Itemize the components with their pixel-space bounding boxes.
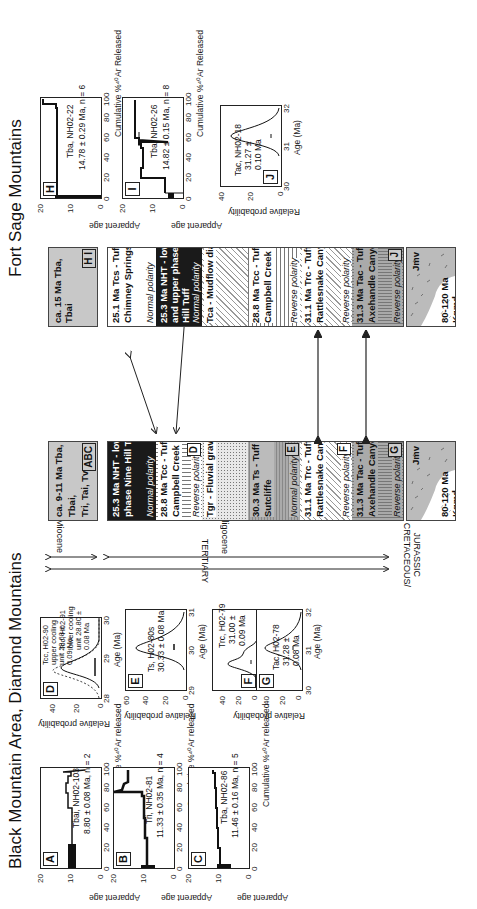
age-spectrum-c: C Tba, NH02-86 11.46 ± 0.16 Ma, n = 5 0 …: [188, 769, 263, 869]
x-axis-label: Age (Ma): [197, 624, 207, 659]
y-axis-label: Relative probability: [233, 711, 305, 721]
plot-frame: C Tba, NH02-86 11.46 ± 0.16 Ma, n = 5: [188, 767, 250, 869]
plot-frame: D Tcc, H02-90 upper cooling unit 28.68 ±…: [40, 617, 102, 699]
y-axis-label: Apparent age: [171, 221, 222, 231]
bm-unit-tcc: 28.8 Ma Tcc - Tuff ofCampbell Creek Reve…: [156, 442, 203, 520]
fs-top-unit: ca. 15 Ma Tba, Tbai H I: [48, 247, 98, 327]
plot-frame: E Ts, H02-80s 30.33 ± 0.08 Ma: [125, 609, 187, 691]
fs-unit-nht: 25.3 Ma NHT - lowerand upper phase NineH…: [156, 248, 203, 326]
y-axis-label: Apparent age: [237, 893, 288, 903]
bm-top-unit: ca. 9-11 Ma Tba, Tbai, Tri, Tai, Tvc ABC: [48, 441, 98, 521]
plot-frame: A Tbai, NH02-103 8.80 ± 0.08 Ma, n = 2: [40, 767, 102, 869]
plot-frame: H Tba, NH02-22 14.78 ± 0.29 Ma, n = 6: [40, 97, 102, 199]
tertiary-label: TERTIARY: [200, 539, 210, 583]
panel-tag: ABC: [82, 443, 96, 471]
probability-plot-j: J Tac, NH02-18 31.27 ± 0.10 Ma 30 31 32 …: [220, 107, 295, 187]
probability-plot-f: F Trc, H02-79 31.00 ± 0.09 Ma: [212, 609, 259, 691]
x-axis-label: Age (Ma): [112, 632, 122, 667]
y-axis-label: Relative probability: [124, 711, 196, 721]
bm-unit-nht: 25.3 Ma NHT - lowerphase Nine Hill Tuff …: [108, 442, 157, 520]
y-axis-label: Apparent age: [89, 893, 140, 903]
y-axis-label: Apparent age: [89, 221, 140, 231]
probability-plot-fg: F Trc, H02-79 31.00 ± 0.09 Ma G Tac, H02…: [212, 611, 317, 691]
plot-frame: B Tri, NH02-81 11.33 ± 0.35 Ma, n = 4: [113, 767, 175, 869]
y-axis-label: Apparent age: [161, 893, 212, 903]
fs-unit-tac: 31.3 Ma Tac - Tuff ofAxehandle Canyon Re…: [352, 248, 403, 326]
age-spectrum-h: H Tba, NH02-22 14.78 ± 0.29 Ma, n = 6 0 …: [40, 99, 115, 199]
probability-plot-d: D Tcc, H02-90 upper cooling unit 28.68 ±…: [40, 619, 115, 699]
miocene-label: Miocene: [55, 519, 65, 553]
y-axis-label: Relative probability: [228, 207, 300, 217]
fs-unit-tca: Tca - Mudflow diamict: [202, 248, 249, 326]
bm-unit-trc: 31.1 Ma Trc - Tuff ofRattlesnake Canyon …: [300, 442, 353, 520]
plot-frame: J Tac, NH02-18 31.27 ± 0.10 Ma: [220, 105, 282, 187]
bm-column: 25.3 Ma NHT - lowerphase Nine Hill Tuff …: [107, 441, 404, 521]
title-fort-sage: Fort Sage Mountains: [6, 119, 26, 277]
bm-basement: 80-120 Ma Kqmd Jmv: [406, 441, 456, 521]
panel-tag: H I: [82, 249, 96, 268]
fs-unit-tcs: 25.1 Ma Tcs - Tuff ofChimney Springs Nor…: [108, 248, 157, 326]
fs-column: 25.1 Ma Tcs - Tuff ofChimney Springs Nor…: [107, 247, 404, 327]
probability-plot-g: G Tac, H02-78 31.28 ± 0.08 Ma: [256, 609, 303, 691]
x-axis-label: Age (Ma): [292, 120, 302, 155]
cretaceous-jurassic-label: JURASSIC CRETACEOUS/: [402, 523, 422, 587]
y-axis-label: Relative probability: [38, 719, 110, 729]
fs-basement: 80-120 Ma Kqmd Jmv: [406, 247, 456, 327]
fs-unit-tcc: 28.8 Ma Tcc - Tuff ofCampbell Creek Reve…: [248, 248, 301, 326]
x-axis-label: Cumulative %⁴⁰Ar Released: [195, 30, 205, 137]
plot-frame: I Tba, NH02-26 14.82 ± 0.15 Ma, n = 8: [122, 97, 184, 199]
figure-canvas: Black Mountain Area, Diamond Mountains F…: [0, 0, 477, 909]
bm-unit-tgr: Tgr - Fluvial gravels: [202, 442, 249, 520]
bm-unit-tac: 31.3 Ma Tac - Tuff ofAxehandle Canyon Re…: [352, 442, 403, 520]
fs-unit-trc: 31.1 Ma Trc - Tuff ofRattlesnake Canyon …: [300, 248, 353, 326]
bm-unit-ts: 30.3 Ma Ts - Tuff ofSutcliffe Normal pol…: [248, 442, 301, 520]
probability-plot-e: E Ts, H02-80s 30.33 ± 0.08 Ma 29 30 31 A…: [125, 611, 200, 691]
age-spectrum-b: B Tri, NH02-81 11.33 ± 0.35 Ma, n = 4 0 …: [113, 769, 188, 869]
age-spectrum-i: I Tba, NH02-26 14.82 ± 0.15 Ma, n = 8 0 …: [122, 99, 197, 199]
title-black-mountain: Black Mountain Area, Diamond Mountains: [6, 552, 26, 869]
age-spectrum-a: A Tbai, NH02-103 8.80 ± 0.08 Ma, n = 2 0…: [40, 769, 115, 869]
x-axis-label: Age (Ma): [312, 624, 322, 659]
